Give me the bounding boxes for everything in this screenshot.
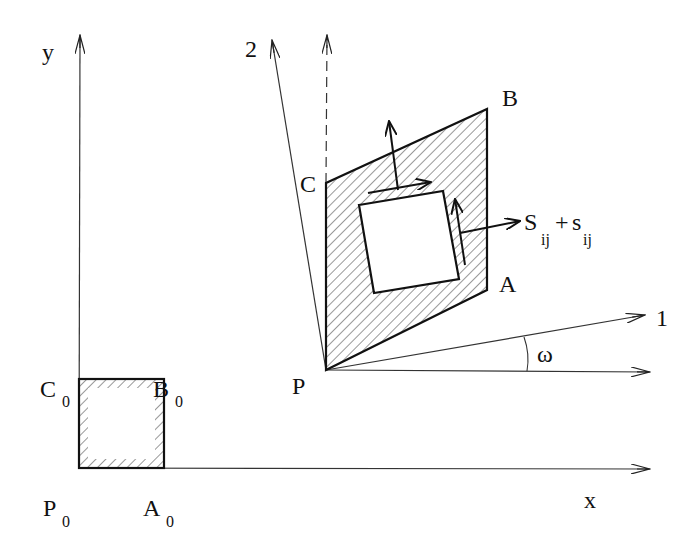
svg-text:s: s	[572, 209, 581, 235]
stress-label: S ij + s ij	[524, 209, 592, 249]
horizontal-axis-through-p	[326, 370, 650, 372]
svg-text:0: 0	[62, 393, 70, 410]
svg-text:B: B	[153, 376, 169, 402]
svg-text:S: S	[524, 209, 537, 235]
label-c0: C 0	[40, 376, 70, 410]
deformation-diagram: y x x 2 1 ω C 0 B 0 P 0 A 0 P A B C S ij…	[0, 0, 700, 546]
svg-text:ij: ij	[541, 231, 550, 249]
svg-text:P: P	[43, 495, 56, 521]
svg-text:ij: ij	[583, 231, 592, 249]
label-p0: P 0	[43, 495, 70, 530]
svg-text:+: +	[555, 209, 569, 235]
omega-angle-arc	[524, 337, 528, 371]
label-c: C	[300, 171, 316, 197]
x-axis-label-visible: x	[584, 487, 596, 513]
label-p: P	[292, 373, 305, 399]
axis-2	[272, 40, 326, 370]
svg-text:0: 0	[62, 513, 70, 530]
label-a0: A 0	[143, 495, 174, 530]
svg-text:0: 0	[175, 393, 183, 410]
y-axis-label: y	[42, 39, 54, 65]
axis-2-label: 2	[245, 36, 257, 62]
undeformed-square	[79, 379, 164, 468]
label-a: A	[499, 271, 517, 297]
svg-text:0: 0	[166, 513, 174, 530]
svg-text:A: A	[143, 495, 161, 521]
dashed-vertical-axis	[326, 35, 327, 183]
svg-text:C: C	[40, 376, 56, 402]
inner-element	[359, 191, 459, 293]
omega-label: ω	[537, 341, 553, 367]
axis-1-label: 1	[656, 305, 668, 331]
label-b: B	[502, 85, 518, 111]
